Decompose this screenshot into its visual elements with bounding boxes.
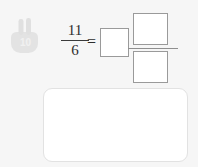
answer-fraction	[128, 10, 180, 86]
work-area-panel[interactable]	[43, 88, 188, 162]
exercise-page: 10 11 6 =	[0, 0, 198, 167]
given-fraction-bar	[61, 40, 89, 41]
given-fraction-denominator: 6	[60, 43, 90, 58]
equals-sign: =	[87, 34, 96, 50]
given-fraction-numerator: 11	[60, 23, 90, 38]
hand-badge-icon: 10	[11, 17, 41, 55]
answer-fraction-bar	[128, 48, 178, 49]
denominator-input[interactable]	[133, 51, 168, 83]
question-number-badge: 10	[11, 17, 41, 55]
given-fraction: 11 6	[60, 23, 90, 58]
numerator-input[interactable]	[133, 13, 168, 45]
problem-expression: 11 6 =	[55, 8, 195, 86]
whole-number-input[interactable]	[100, 28, 129, 57]
badge-number-text: 10	[20, 37, 32, 48]
